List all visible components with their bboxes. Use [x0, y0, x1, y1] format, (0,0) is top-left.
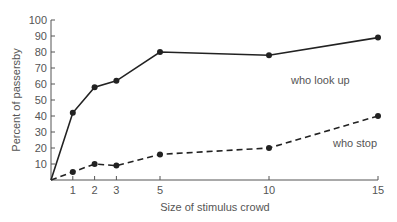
y-tick-label: 20: [35, 142, 47, 154]
series-who-look-up: [51, 35, 381, 180]
y-tick-label: 40: [35, 110, 47, 122]
series-label-who-look-up: who look up: [290, 74, 350, 86]
x-tick-label: 15: [372, 184, 384, 196]
x-axis-label: Size of stimulus crowd: [160, 201, 269, 213]
x-tick-label: 1: [70, 184, 76, 196]
x-axis: 12351015: [51, 176, 384, 196]
series-line: [51, 116, 378, 180]
data-point-marker: [92, 161, 98, 167]
y-tick-label: 10: [35, 158, 47, 170]
y-tick-label: 50: [35, 94, 47, 106]
series-who-stop: [51, 113, 381, 180]
data-point-marker: [70, 110, 76, 116]
x-tick-label: 2: [92, 184, 98, 196]
data-point-marker: [70, 169, 76, 175]
series-line: [51, 38, 378, 180]
line-chart: 102030405060708090100 12351015 Percent o…: [0, 0, 397, 222]
data-point-marker: [113, 78, 119, 84]
y-tick-label: 100: [29, 14, 47, 26]
y-tick-label: 70: [35, 62, 47, 74]
x-tick-label: 3: [113, 184, 119, 196]
y-tick-label: 90: [35, 30, 47, 42]
data-point-marker: [92, 84, 98, 90]
y-tick-label: 60: [35, 78, 47, 90]
y-axis: 102030405060708090100: [29, 14, 55, 180]
y-tick-label: 80: [35, 46, 47, 58]
series-label-who-stop: who stop: [332, 137, 377, 149]
x-tick-label: 5: [157, 184, 163, 196]
x-tick-label: 10: [263, 184, 275, 196]
data-point-marker: [266, 52, 272, 58]
y-tick-label: 30: [35, 126, 47, 138]
y-axis-label: Percent of passersby: [10, 48, 22, 152]
data-point-marker: [113, 163, 119, 169]
data-point-marker: [266, 145, 272, 151]
data-point-marker: [375, 113, 381, 119]
data-point-marker: [157, 49, 163, 55]
data-point-marker: [157, 151, 163, 157]
data-point-marker: [375, 35, 381, 41]
